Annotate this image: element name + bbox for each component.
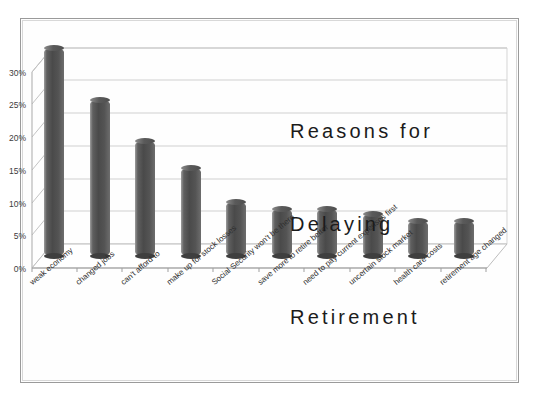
plot-area: 0% 5% 10% 15% 20% 25% 30%	[22, 22, 517, 380]
chart-figure: 0% 5% 10% 15% 20% 25% 30%	[0, 0, 541, 403]
chart-title: Reasons for Delaying Retirement	[290, 54, 433, 395]
x-label-4: Social Security won't be there	[210, 212, 296, 286]
x-label-2: can't afford to	[119, 249, 162, 287]
x-label-9: retirement age changed	[438, 226, 509, 287]
x-label-3: make up for stock losses	[165, 223, 238, 286]
x-axis-category-labels: weak economy changed jobs can't afford t…	[22, 22, 517, 380]
chart-title-line-3: Retirement	[290, 302, 433, 333]
x-label-1: changed jobs	[74, 249, 116, 286]
chart-title-line-1: Reasons for	[290, 116, 433, 147]
x-label-0: weak economy	[28, 246, 75, 287]
chart-title-line-2: Delaying	[290, 209, 433, 240]
